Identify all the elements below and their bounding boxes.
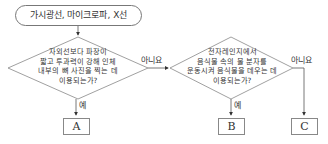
q2-line-2: 음식물 속의 물 분자를 [176,57,288,67]
edge-label-q1-yes: 예 [79,101,86,111]
q1-line-3: 내부의 뼈 사진을 찍는 데 [28,66,128,76]
outcome-box-b: B [218,118,245,135]
edge-label-q2-no: 아니요 [291,56,312,66]
decision-text-q2: 전자레인지에서 음식물 속의 물 분자를 운동시켜 음식물을 데우는 데 이용되… [176,47,288,85]
edge-label-q1-no: 아니요 [141,56,162,66]
q2-line-1: 전자레인지에서 [176,47,288,57]
arrow-q2-no [293,68,304,115]
outcome-box-a: A [63,118,90,135]
start-node: 가시광선, 마이크로파, X선 [15,5,142,26]
q1-line-2: 짧고 투과력이 강해 인체 [28,57,128,67]
q1-line-1: 자외선보다 파장이 [28,47,128,57]
decision-text-q1: 자외선보다 파장이 짧고 투과력이 강해 인체 내부의 뼈 사진을 찍는 데 이… [28,47,128,85]
q2-line-4: 이용되는가? [176,76,288,86]
edge-label-q2-yes: 예 [234,101,241,111]
q2-line-3: 운동시켜 음식물을 데우는 데 [176,66,288,76]
outcome-box-c: C [291,118,318,135]
q1-line-4: 이용되는가? [28,76,128,86]
